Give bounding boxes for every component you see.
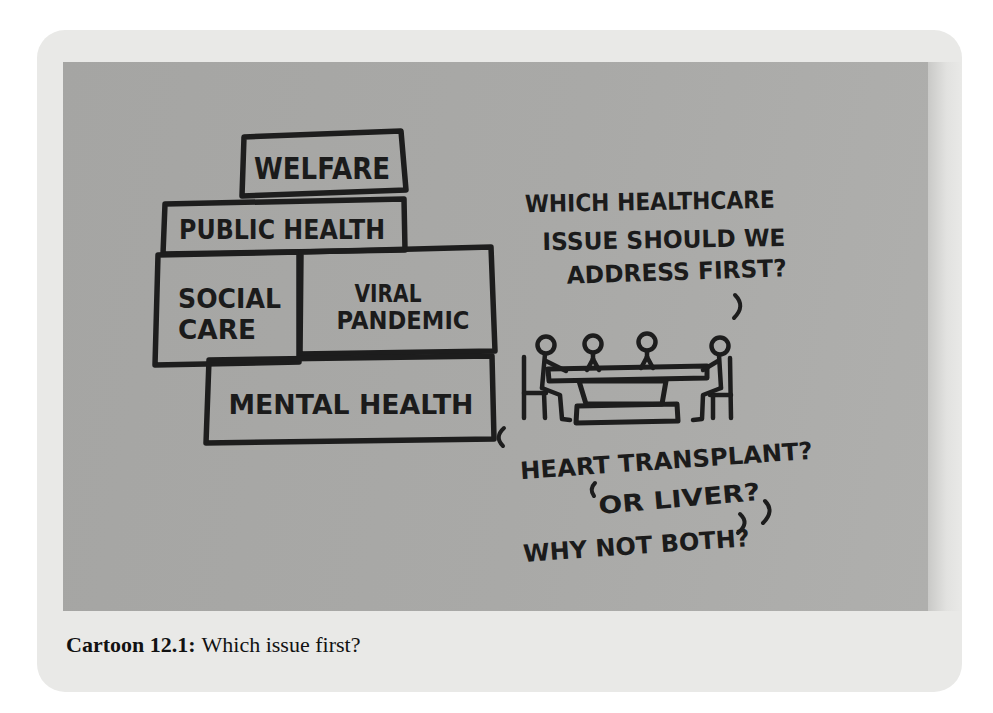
viral-pandemic-label-line2: PANDEMIC	[337, 307, 470, 335]
social-care-label-line2: CARE	[178, 315, 256, 345]
question-line-1: WHICH HEALTHCARE	[525, 186, 775, 218]
speech-paren-liver	[763, 501, 770, 523]
figure-middle1-head	[585, 336, 602, 353]
book-page: WELFARE PUBLIC HEALTH SOCIAL CARE VIRAL …	[0, 0, 993, 713]
figure-right-head	[712, 338, 729, 355]
chair-left-leg	[544, 393, 545, 418]
question-line-3: ADDRESS FIRST?	[566, 254, 787, 290]
mental-health-block-label: MENTAL HEALTH	[229, 389, 474, 420]
cartoon-photo: WELFARE PUBLIC HEALTH SOCIAL CARE VIRAL …	[63, 62, 928, 611]
table-base	[576, 404, 678, 423]
caption-text: Which issue first?	[202, 632, 361, 657]
figure-left-head	[538, 337, 555, 354]
photo-edge-highlight	[928, 62, 962, 611]
social-care-label-line1: SOCIAL	[178, 284, 281, 314]
figure-caption: Cartoon 12.1:Which issue first?	[66, 632, 360, 658]
speech-tick-or	[592, 483, 595, 496]
chair-right-back	[730, 358, 731, 418]
answer-line-2: OR LIVER?	[597, 478, 761, 520]
answer-line-1: HEART TRANSPLANT?	[519, 437, 813, 485]
cartoon-drawing: WELFARE PUBLIC HEALTH SOCIAL CARE VIRAL …	[63, 62, 928, 611]
figure-middle2-head	[639, 334, 656, 351]
answer-line-3: WHY NOT BOTH?	[522, 524, 750, 568]
speech-paren-left	[499, 428, 504, 446]
stick-figure-middle-2	[639, 334, 656, 369]
question-line-2: ISSUE SHOULD WE	[542, 224, 785, 256]
caption-label: Cartoon 12.1:	[66, 632, 196, 657]
public-health-block-label: PUBLIC HEALTH	[179, 215, 385, 245]
figure-left-torso	[542, 354, 545, 388]
table-pedestal	[579, 381, 666, 404]
stick-figure-middle-1	[585, 336, 602, 371]
welfare-block-label: WELFARE	[254, 151, 390, 186]
viral-pandemic-label-line1: VIRAL	[355, 280, 422, 308]
speech-curve-question	[734, 295, 740, 318]
figure-card: WELFARE PUBLIC HEALTH SOCIAL CARE VIRAL …	[37, 30, 962, 692]
meeting-table	[548, 366, 707, 423]
